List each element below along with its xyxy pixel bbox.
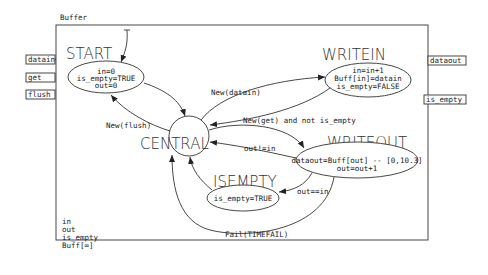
state-central-name: CENTRAL <box>140 135 209 153</box>
state-writeout[interactable]: WRITEOUT dataout=Buff[out] -- [0,10.3] o… <box>292 134 423 178</box>
output-port-is-empty[interactable]: is_empty <box>424 95 466 104</box>
svg-text:dataout: dataout <box>430 56 462 65</box>
state-start[interactable]: START in=0 is_empty=TRUE out=0 <box>66 45 144 93</box>
svg-text:get: get <box>28 73 42 82</box>
svg-text:is_empty: is_empty <box>426 95 463 104</box>
label-new-get: New(get) and not is_empty <box>243 116 356 125</box>
svg-text:out=0: out=0 <box>95 81 118 90</box>
input-port-datain[interactable]: datain <box>26 55 55 64</box>
input-port-get[interactable]: get <box>26 73 55 82</box>
label-fail: Fail(TIMEFAIL) <box>225 230 288 239</box>
transition-isempty-central <box>190 157 212 190</box>
label-new-datain: New(datain) <box>211 88 261 97</box>
initial-transition <box>121 30 127 62</box>
variable-list: in out is_empty Buff[∞] <box>62 217 99 250</box>
svg-text:datain: datain <box>28 55 55 64</box>
label-new-flush: New(flush) <box>106 121 151 130</box>
label-out-eq-in: out==in <box>297 187 329 196</box>
transition-start-central <box>144 83 185 116</box>
input-port-flush[interactable]: flush <box>26 90 55 99</box>
output-port-dataout[interactable]: dataout <box>428 56 466 65</box>
state-writein[interactable]: WRITEIN in=in+1 Buff[in]=datain is_empty… <box>322 46 411 97</box>
state-writein-name: WRITEIN <box>322 46 386 64</box>
state-start-name: START <box>66 45 112 63</box>
svg-text:is_empty=FALSE: is_empty=FALSE <box>336 82 400 91</box>
svg-text:Buff[∞]: Buff[∞] <box>62 241 94 250</box>
svg-text:flush: flush <box>28 90 51 99</box>
container-label: Buffer <box>60 13 88 22</box>
state-machine-diagram: Buffer datain get flush dataout is_empty… <box>0 0 488 275</box>
transition-new-datain <box>201 77 325 120</box>
label-out-ne-in: out!=in <box>244 144 276 153</box>
state-isempty[interactable]: ISEMPTY is_empty=TRUE <box>207 173 279 211</box>
svg-text:is_empty=TRUE: is_empty=TRUE <box>214 194 273 203</box>
svg-text:out=out+1: out=out+1 <box>337 164 378 173</box>
